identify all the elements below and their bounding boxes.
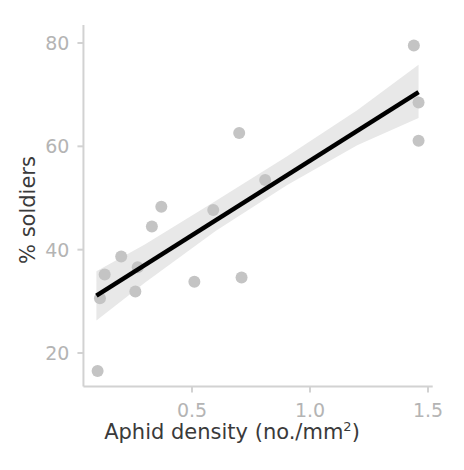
x-tick-label: 1.0 [295, 399, 325, 421]
data-point [236, 272, 248, 284]
data-point [408, 40, 420, 52]
data-point [413, 135, 425, 147]
regression-line-group [96, 92, 418, 296]
x-axis-title-base: Aphid density (no./mm [104, 420, 343, 444]
regression-line [96, 92, 418, 296]
data-point [129, 286, 141, 298]
y-axis-title: % soldiers [16, 110, 40, 310]
y-tick-label: 20 [0, 342, 69, 364]
data-point [207, 204, 219, 216]
scatter-plot-figure: 20406080 0.51.01.5 % soldiers Aphid dens… [0, 0, 464, 470]
data-point [233, 127, 245, 139]
x-axis-title-exponent: 2 [343, 419, 351, 434]
x-axis-title: Aphid density (no./mm2) [0, 420, 464, 444]
data-point [99, 268, 111, 280]
data-point [188, 276, 200, 288]
data-point [146, 220, 158, 232]
data-point [92, 365, 104, 377]
data-point [115, 250, 127, 262]
y-tick-label: 80 [0, 32, 69, 54]
axis-lines-group [77, 25, 432, 393]
data-point [155, 201, 167, 213]
x-tick-label: 1.5 [413, 399, 443, 421]
data-point [413, 96, 425, 108]
data-points-group [92, 40, 425, 378]
x-tick-label: 0.5 [177, 399, 207, 421]
x-axis-title-tail: ) [352, 420, 360, 444]
plot-canvas [0, 0, 464, 470]
